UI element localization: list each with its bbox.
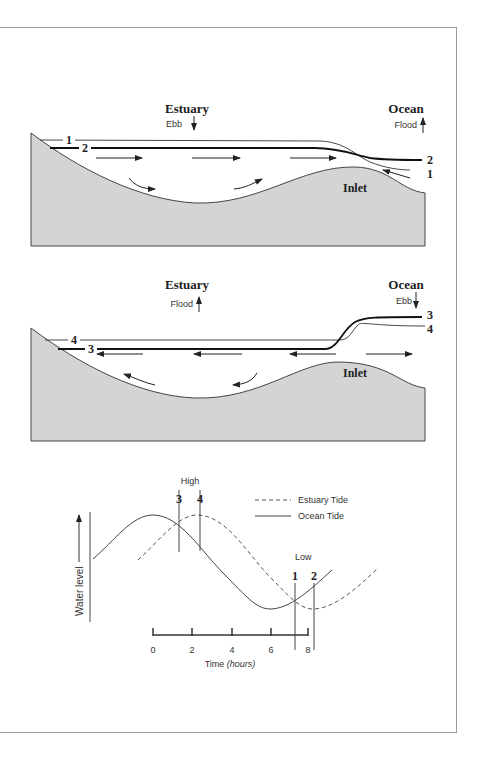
water-line-3 [58,317,422,349]
ebb-label: Ebb [166,119,182,129]
legend-ocean-tide: Ocean Tide [298,511,344,521]
tick-label: 8 [305,645,310,655]
line-label-3-left: 3 [88,342,94,356]
marker-label-1: 1 [292,569,298,583]
tide-chart: Water level 3 4 1 2 High Low Estuary Tid… [74,476,377,669]
eddy-arrow [233,373,257,385]
flood-label: Flood [394,120,417,130]
low-label: Low [295,552,312,562]
tick-label: 4 [229,645,234,655]
marker-label-3: 3 [176,492,182,506]
eddy-arrow [234,179,262,189]
legend-estuary-tide: Estuary Tide [298,495,348,505]
tick-label: 0 [150,645,155,655]
line-label-3-right: 3 [427,308,433,322]
line-label-4-left: 4 [71,333,77,347]
line-label-2-right: 2 [427,153,433,167]
inlet-label: Inlet [343,366,367,380]
marker-label-2: 2 [311,569,317,583]
line-label-4-right: 4 [427,322,433,336]
eddy-arrow [129,178,155,189]
estuary-label: Estuary [165,277,210,292]
line-label-2-left: 2 [82,141,88,155]
ocean-tide-curve [93,515,332,609]
y-axis-label: Water level [74,566,85,616]
line-label-1-right: 1 [427,167,433,181]
flood-label: Flood [170,299,193,309]
line-label-1-left: 1 [66,133,72,147]
ocean-label: Ocean [388,101,424,116]
flood-panel: 4 3 3 4 Inlet Estuary Flood Ocean Ebb [31,277,433,441]
estuary-tide-curve [138,515,377,609]
high-label: High [181,476,200,486]
water-line-4 [45,323,425,340]
tick-label: 2 [189,645,194,655]
marker-label-4: 4 [197,492,203,506]
tidal-inlet-diagram: 1 2 2 1 Inlet Estuary Ebb Ocean Flood 4 … [0,0,480,772]
estuary-label: Estuary [165,101,210,116]
tick-label: 6 [268,645,273,655]
ebb-label: Ebb [396,296,412,306]
ocean-label: Ocean [388,277,424,292]
inlet-label: Inlet [343,181,367,195]
ebb-panel: 1 2 2 1 Inlet Estuary Ebb Ocean Flood [31,101,433,246]
water-line-1 [40,140,410,170]
x-axis-label: Time (hours) [205,659,256,669]
